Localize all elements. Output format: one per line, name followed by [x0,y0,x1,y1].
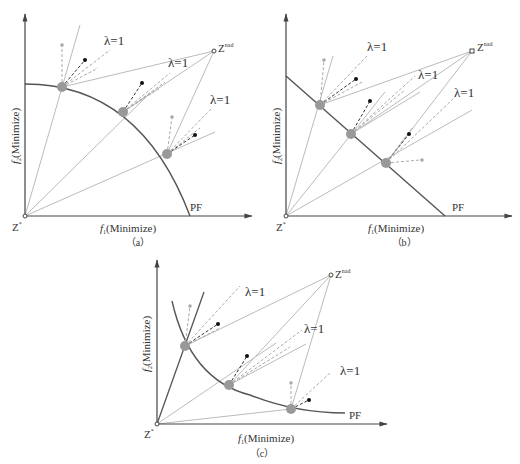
lambda-label: λ=1 [210,92,230,107]
direction-fan-1 [320,55,368,105]
nadir-label: Znad [477,41,492,53]
solution-point [57,82,67,92]
front-label: PF [349,409,361,421]
lambda-label: λ=1 [418,67,438,82]
nadir-label: Znad [335,268,350,280]
lambda-label: λ=1 [104,33,124,48]
direction-fan-3 [167,108,212,154]
solution-point [315,100,325,110]
front-label: PF [452,201,464,213]
dark-dot [216,322,220,326]
solution-point [286,404,296,414]
light-dot [188,304,192,308]
panel-c: λ=1 λ=1 λ=1 Znad PF Z* f1(Minimize) （c） … [140,260,387,459]
figure: λ=1 λ=1 λ=1 Znad PF Z* f1(Minimize) （a） … [0,0,520,464]
lambda-label: λ=1 [340,363,360,378]
nadir-point [470,49,474,53]
dark-dot [245,354,249,358]
light-dot [170,115,174,119]
panel-caption: （a） [126,237,150,248]
panel-caption: （c） [250,448,274,459]
reference-rays [286,51,472,216]
ideal-point [155,422,159,426]
nadir-point [329,273,333,277]
direction-fan-2 [229,330,302,385]
reference-rays [25,25,215,216]
x-axis-label: f1(Minimize) [100,222,156,235]
y-axis-label: f2(Minimize) [270,108,283,164]
dark-dot [83,58,87,62]
lambda-label: λ=1 [168,55,188,70]
light-dot [289,381,293,385]
x-axis-label: f1(Minimize) [368,222,424,235]
solution-point [180,341,190,351]
dark-dot [407,132,411,136]
origin-label: Z* [12,221,22,233]
lambda-label: λ=1 [454,85,474,100]
dark-dot [140,81,144,85]
solution-point [381,158,391,168]
direction-fan-1 [62,45,110,87]
lambda-label: λ=1 [304,321,324,336]
direction-fan-2 [351,76,415,134]
ideal-point [284,214,288,218]
panel-b: λ=1 λ=1 λ=1 Znad PF Z* f1(Minimize) （b） … [270,14,512,248]
solution-point [162,149,172,159]
light-dot [420,158,424,162]
nadir-point [212,49,216,53]
lambda-label: λ=1 [367,39,387,54]
solution-point [118,107,128,117]
panel-caption: （b） [392,237,417,248]
pareto-front [286,76,445,216]
origin-label: Z* [276,221,286,233]
direction-fan-1 [185,286,240,346]
dark-dot [354,77,358,81]
reference-ray-dark [157,292,204,424]
dark-dot [368,99,372,103]
solution-point [224,380,234,390]
front-label: PF [190,201,202,213]
solution-point [346,129,356,139]
y-axis-label: f2(Minimize) [9,108,22,164]
panel-a: λ=1 λ=1 λ=1 Znad PF Z* f1(Minimize) （a） … [9,14,252,248]
nadir-label: Znad [218,42,233,54]
direction-fan-2 [123,73,170,112]
origin-label: Z* [144,428,154,440]
light-dot [322,58,326,62]
y-axis-label: f2(Minimize) [140,316,153,372]
light-dot [60,43,64,47]
dark-dot [307,398,311,402]
ideal-point [23,214,27,218]
lambda-label: λ=1 [245,284,265,299]
dark-dot [193,133,197,137]
x-axis-label: f1(Minimize) [238,432,294,445]
